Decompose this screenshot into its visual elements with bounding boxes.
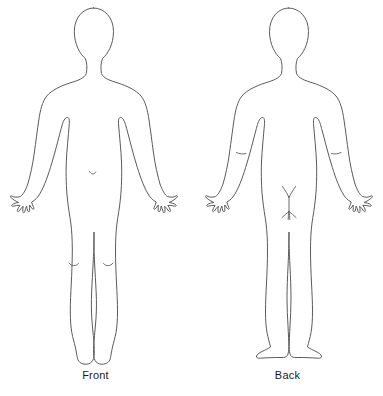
back-body-figure[interactable] xyxy=(192,0,383,372)
back-view-panel[interactable]: Back xyxy=(192,0,383,396)
front-body-outline[interactable] xyxy=(10,8,177,364)
front-view-label: Front xyxy=(0,369,191,381)
body-chart-diagram: Front Back xyxy=(0,0,383,396)
front-view-panel[interactable]: Front xyxy=(0,0,191,396)
back-body-outline[interactable] xyxy=(206,8,373,358)
front-body-figure[interactable] xyxy=(0,0,191,372)
back-view-label: Back xyxy=(192,369,383,381)
